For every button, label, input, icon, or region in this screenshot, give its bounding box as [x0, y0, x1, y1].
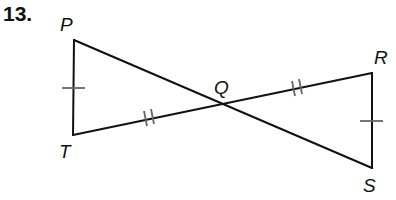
double-tick-tq-1: [144, 111, 147, 126]
vertex-label-p: P: [60, 14, 73, 35]
bowtie-triangles-diagram: P T Q R S: [0, 0, 396, 200]
vertex-label-s: S: [363, 175, 376, 196]
double-tick-tq-2: [151, 109, 154, 124]
double-tick-qr-2: [299, 79, 302, 94]
vertex-label-q: Q: [214, 77, 229, 98]
vertex-label-r: R: [374, 47, 388, 68]
vertex-label-t: T: [59, 141, 72, 162]
